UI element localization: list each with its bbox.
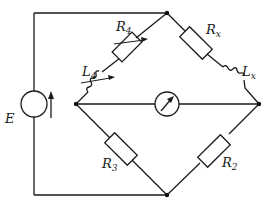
branch-top-right-wire-c xyxy=(244,80,259,104)
inductor-Lx-icon xyxy=(223,66,244,76)
current-source-icon xyxy=(21,91,54,118)
branch-left-top-wire-c xyxy=(136,13,167,38)
node-top xyxy=(165,11,169,15)
branch-top-right-wire-b xyxy=(207,54,223,67)
branch-left-top-wire-a xyxy=(76,92,88,104)
label-Lx: Lx xyxy=(241,64,256,81)
label-Rx: Rx xyxy=(205,22,221,39)
node-bottom xyxy=(165,193,169,197)
branch-left-bottom-wire-b xyxy=(132,160,167,195)
node-right xyxy=(257,102,261,106)
node-left xyxy=(74,102,78,106)
branch-right-bottom-wire-a xyxy=(229,104,259,134)
label-R2: R2 xyxy=(221,155,238,172)
branch-left-bottom-wire-a xyxy=(76,104,110,138)
galvanometer-icon xyxy=(155,92,179,116)
label-L4: L4 xyxy=(81,64,97,81)
branch-left-top-wire-b xyxy=(102,58,120,72)
bridge-circuit-diagram: E R4 L4 Rx Lx xyxy=(0,0,270,210)
label-R3: R3 xyxy=(101,156,118,173)
source-label: E xyxy=(4,111,15,126)
branch-top-right-wire-a xyxy=(167,13,187,33)
label-R4: R4 xyxy=(115,19,132,36)
branch-right-bottom-wire-b xyxy=(167,163,200,195)
